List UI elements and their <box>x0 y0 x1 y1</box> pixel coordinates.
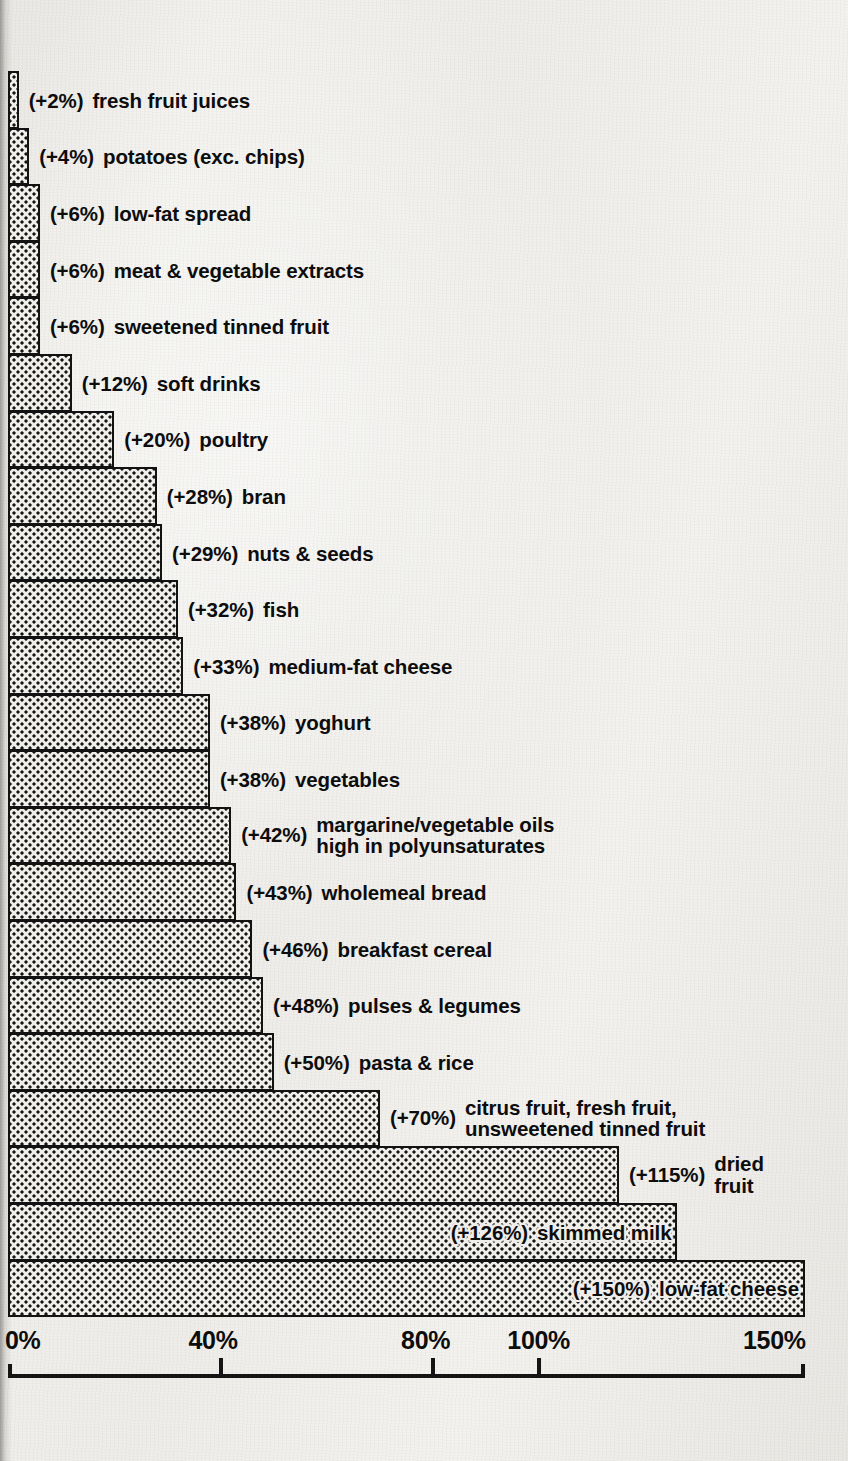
bar-value-label: (+38%) <box>220 713 286 734</box>
bar-category-label: fresh fruit juices <box>92 90 250 111</box>
bar-row[interactable]: (+46%)breakfast cereal <box>8 920 848 978</box>
bar-label: (+6%)sweetened tinned fruit <box>50 315 329 338</box>
bar-rect <box>8 524 162 582</box>
bar-row[interactable]: (+6%)meat & vegetable extracts <box>8 241 848 299</box>
bar-rect <box>8 1090 380 1148</box>
axis-tick <box>801 1364 805 1378</box>
bar-row[interactable]: (+50%)pasta & rice <box>8 1033 848 1091</box>
bar-category-label: dried fruit <box>714 1154 764 1197</box>
bar-value-label: (+38%) <box>220 769 286 790</box>
bar-value-label: (+70%) <box>390 1108 456 1129</box>
bar-row[interactable]: (+150%)low-fat cheese <box>8 1260 848 1318</box>
bar-row[interactable]: (+126%)skimmed milk <box>8 1203 848 1261</box>
bar-category-label: fish <box>263 599 299 620</box>
bar-row[interactable]: (+43%)wholemeal bread <box>8 863 848 921</box>
bar-category-label: margarine/vegetable oils high in polyuns… <box>316 814 554 857</box>
bar-row[interactable]: (+20%)poultry <box>8 411 848 469</box>
bar-row[interactable]: (+38%)yoghurt <box>8 694 848 752</box>
axis-tick-label: 80% <box>401 1326 450 1355</box>
bar-rect <box>8 128 29 186</box>
bar-row[interactable]: (+6%)low-fat spread <box>8 184 848 242</box>
bar-category-label: low-fat spread <box>114 203 252 224</box>
bar-value-label: (+2%) <box>29 90 84 111</box>
bar-value-label: (+50%) <box>284 1052 350 1073</box>
bar-rect <box>8 241 40 299</box>
bar-value-label: (+43%) <box>246 882 312 903</box>
bar-row[interactable]: (+6%)sweetened tinned fruit <box>8 297 848 355</box>
bar-row[interactable]: (+2%)fresh fruit juices <box>8 71 848 129</box>
bar-rect <box>8 920 252 978</box>
bar-row[interactable]: (+48%)pulses & legumes <box>8 977 848 1035</box>
bar-rect <box>8 467 157 525</box>
bar-category-label: potatoes (exc. chips) <box>103 147 305 168</box>
bar-category-label: medium-fat cheese <box>268 656 452 677</box>
bar-rect <box>8 1033 274 1091</box>
bar-category-label: wholemeal bread <box>322 882 487 903</box>
bar-label: (+38%)vegetables <box>220 767 400 790</box>
bar-category-label: skimmed milk <box>537 1222 671 1243</box>
bar-rect <box>8 807 231 865</box>
bar-row[interactable]: (+42%)margarine/vegetable oils high in p… <box>8 807 848 865</box>
bar-value-label: (+42%) <box>241 825 307 846</box>
bar-label: (+48%)pulses & legumes <box>273 994 521 1017</box>
bar-label: (+29%)nuts & seeds <box>172 541 373 564</box>
bar-label: (+28%)bran <box>167 484 286 507</box>
bar-value-label: (+115%) <box>629 1165 705 1186</box>
bar-rect <box>8 977 263 1035</box>
bar-label: (+126%)skimmed milk <box>451 1220 672 1243</box>
axis-tick-label: 40% <box>189 1326 238 1355</box>
bar-rect <box>8 297 40 355</box>
bar-label: (+115%)dried fruit <box>629 1154 764 1197</box>
bar-label: (+6%)meat & vegetable extracts <box>50 258 364 281</box>
bar-category-label: pasta & rice <box>359 1052 474 1073</box>
chart-page: (+2%)fresh fruit juices(+4%)potatoes (ex… <box>0 0 848 1461</box>
axis-tick <box>431 1358 435 1376</box>
bar-row[interactable]: (+38%)vegetables <box>8 750 848 808</box>
bar-category-label: sweetened tinned fruit <box>114 316 329 337</box>
bar-category-label: yoghurt <box>295 713 371 734</box>
bar-value-label: (+4%) <box>39 147 94 168</box>
bar-rect <box>8 354 72 412</box>
bar-row[interactable]: (+70%)citrus fruit, fresh fruit, unsweet… <box>8 1090 848 1148</box>
axis-tick <box>8 1364 12 1378</box>
bar-category-label: breakfast cereal <box>337 939 492 960</box>
bar-label: (+150%)low-fat cheese <box>573 1277 799 1300</box>
bar-rect <box>8 411 114 469</box>
bar-category-label: poultry <box>199 430 268 451</box>
bar-label: (+2%)fresh fruit juices <box>29 88 250 111</box>
bar-label: (+46%)breakfast cereal <box>262 937 492 960</box>
bar-value-label: (+33%) <box>193 656 259 677</box>
bar-rect <box>8 863 236 921</box>
bar-row[interactable]: (+4%)potatoes (exc. chips) <box>8 128 848 186</box>
bar-label: (+4%)potatoes (exc. chips) <box>39 145 305 168</box>
bar-value-label: (+48%) <box>273 996 339 1017</box>
bar-row[interactable]: (+12%)soft drinks <box>8 354 848 412</box>
bar-row[interactable]: (+115%)dried fruit <box>8 1146 848 1204</box>
bar-label: (+50%)pasta & rice <box>284 1050 474 1073</box>
bar-value-label: (+12%) <box>82 373 148 394</box>
bar-row[interactable]: (+32%)fish <box>8 580 848 638</box>
bar-label: (+32%)fish <box>188 598 299 621</box>
axis-tick <box>219 1358 223 1376</box>
bar-value-label: (+20%) <box>124 430 190 451</box>
bar-row[interactable]: (+33%)medium-fat cheese <box>8 637 848 695</box>
axis-tick-label: 100% <box>507 1326 570 1355</box>
bar-row[interactable]: (+28%)bran <box>8 467 848 525</box>
bar-category-label: soft drinks <box>157 373 261 394</box>
axis-line <box>8 1374 805 1378</box>
bar-category-label: pulses & legumes <box>348 996 521 1017</box>
axis-tick-label: 0% <box>5 1326 41 1355</box>
bar-value-label: (+150%) <box>573 1279 650 1300</box>
bar-category-label: meat & vegetable extracts <box>114 260 364 281</box>
bar-category-label: vegetables <box>295 769 400 790</box>
bar-label: (+43%)wholemeal bread <box>246 881 486 904</box>
bar-label: (+42%)margarine/vegetable oils high in p… <box>241 814 554 857</box>
bar-row[interactable]: (+29%)nuts & seeds <box>8 524 848 582</box>
bar-label: (+70%)citrus fruit, fresh fruit, unsweet… <box>390 1097 705 1140</box>
bar-rect <box>8 750 210 808</box>
bar-category-label: citrus fruit, fresh fruit, unsweetened t… <box>465 1097 705 1140</box>
bar-value-label: (+29%) <box>172 543 238 564</box>
bar-category-label: bran <box>242 486 286 507</box>
bar-rect <box>8 580 178 638</box>
bar-rect <box>8 184 40 242</box>
